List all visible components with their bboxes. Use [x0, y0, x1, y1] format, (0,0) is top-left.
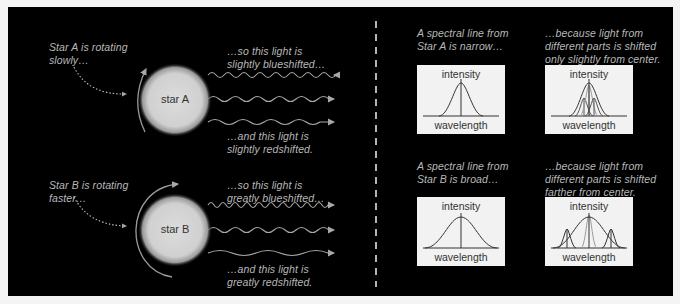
graph-narrow-line: intensity wavelength [417, 65, 505, 134]
wave-center-a [208, 97, 334, 102]
star-b-blueshift-caption: …so this light is greatly blueshifted… [227, 179, 325, 205]
star-a-rotation-caption: Star A is rotating slowly… [49, 41, 128, 67]
row-a-left-caption: A spectral line from Star A is narrow… [417, 27, 508, 53]
x-axis-label: wavelength [545, 251, 633, 263]
y-axis-label: intensity [417, 200, 505, 212]
graph-broad-decomposed: intensity wavelength [545, 197, 633, 266]
y-axis-label: intensity [545, 200, 633, 212]
wave-center-b [208, 228, 334, 233]
wave-redshift-b [208, 251, 334, 256]
row-a-right-caption: …because light from different parts is s… [545, 27, 660, 66]
graph-narrow-decomposed: intensity wavelength [545, 65, 633, 134]
x-axis-label: wavelength [417, 251, 505, 263]
star-b-redshift-caption: …and this light is greatly redshifted. [227, 263, 312, 289]
star-b-label: star B [140, 223, 210, 235]
wave-redshift-a [208, 120, 334, 125]
wave-blueshift-a [208, 73, 336, 78]
star-a-blueshift-caption: …so this light is slightly blueshifted… [227, 45, 325, 71]
dotted-pointer-star-a [74, 67, 126, 94]
star-a-redshift-caption: …and this light is slightly redshifted. [227, 130, 313, 156]
x-axis-label: wavelength [545, 119, 633, 131]
star-a-label: star A [140, 93, 210, 105]
y-axis-label: intensity [545, 68, 633, 80]
diagram-panel: star A star B Star A is rotating slowly…… [8, 7, 673, 296]
row-b-right-caption: …because light from different parts is s… [545, 160, 656, 199]
y-axis-label: intensity [417, 68, 505, 80]
star-b-rotation-caption: Star B is rotating faster… [49, 179, 128, 205]
row-b-left-caption: A spectral line from Star B is broad… [417, 160, 508, 186]
x-axis-label: wavelength [417, 119, 505, 131]
graph-broad-line: intensity wavelength [417, 197, 505, 266]
